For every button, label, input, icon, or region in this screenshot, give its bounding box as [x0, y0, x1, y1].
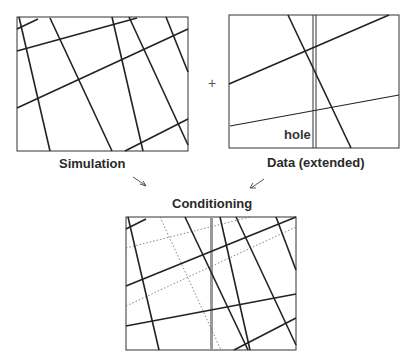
hole-label: hole — [284, 127, 311, 142]
data-frame — [229, 15, 399, 148]
hole-trace — [313, 15, 316, 148]
data-fractures — [229, 15, 399, 148]
data-extended-label: Data (extended) — [267, 155, 365, 170]
conditioning-label: Conditioning — [172, 196, 252, 211]
data-panel: hole — [229, 15, 399, 148]
diagram-canvas: + hole — [0, 0, 417, 362]
simulation-panel — [17, 17, 188, 151]
simulation-fractures — [17, 17, 188, 151]
hole-band — [210, 217, 213, 350]
simulation-label: Simulation — [59, 156, 125, 171]
arrows — [133, 177, 264, 188]
plus-operator: + — [208, 75, 216, 91]
conditioning-panel — [126, 217, 296, 350]
